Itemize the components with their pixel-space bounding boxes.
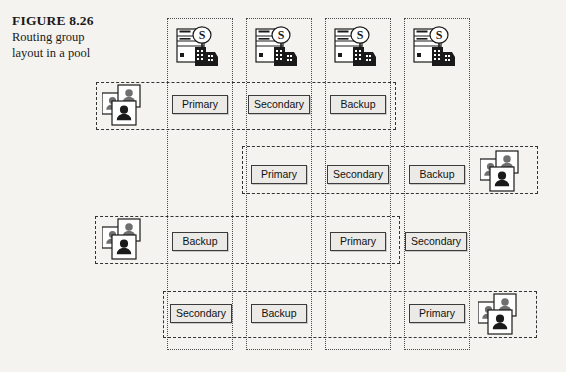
role-box-primary-g2[interactable]: Primary xyxy=(251,165,307,184)
users-icon-4 xyxy=(478,293,530,337)
role-box-primary-g3[interactable]: Primary xyxy=(330,232,386,251)
figure-label-text: FIGURE 8.26 xyxy=(12,13,94,28)
role-box-secondary-g3[interactable]: Secondary xyxy=(405,232,467,251)
figure-description: Routing group layout in a pool xyxy=(12,30,112,61)
users-icon-2 xyxy=(480,150,532,194)
server-icon-1: S xyxy=(175,25,221,69)
role-box-secondary-g4[interactable]: Secondary xyxy=(170,304,232,323)
role-box-backup-g3[interactable]: Backup xyxy=(172,232,228,251)
figure-label: FIGURE 8.26 xyxy=(12,14,112,28)
users-icon-1 xyxy=(102,84,154,128)
figure-page: FIGURE 8.26 Routing group layout in a po… xyxy=(0,0,566,372)
role-box-secondary-g2[interactable]: Secondary xyxy=(327,165,389,184)
role-box-backup-g2[interactable]: Backup xyxy=(409,165,465,184)
svg-text:S: S xyxy=(278,28,285,42)
figure-caption: FIGURE 8.26 Routing group layout in a po… xyxy=(12,14,112,61)
role-box-primary-g4[interactable]: Primary xyxy=(409,304,465,323)
role-box-backup-g4[interactable]: Backup xyxy=(251,304,307,323)
server-icon-4: S xyxy=(412,25,458,69)
figure-description-line-1: Routing group xyxy=(12,30,112,46)
role-box-secondary-g1[interactable]: Secondary xyxy=(248,95,310,114)
server-icon-3: S xyxy=(333,25,379,69)
svg-text:S: S xyxy=(357,28,364,42)
svg-text:S: S xyxy=(436,28,443,42)
svg-text:S: S xyxy=(199,28,206,42)
figure-description-line-2: layout in a pool xyxy=(12,46,112,62)
role-box-backup-g1[interactable]: Backup xyxy=(330,95,386,114)
server-icon-2: S xyxy=(254,25,300,69)
role-box-primary-g1[interactable]: Primary xyxy=(172,95,228,114)
users-icon-3 xyxy=(102,218,154,262)
